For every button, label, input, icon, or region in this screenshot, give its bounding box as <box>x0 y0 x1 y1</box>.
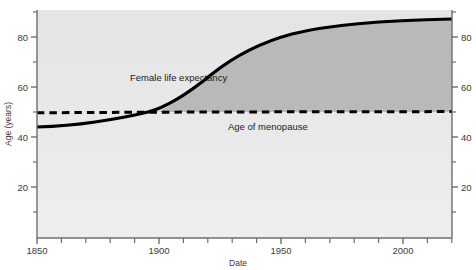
x-tick-label-1850: 1850 <box>26 245 47 256</box>
y-tick-label-left-20: 20 <box>17 182 28 193</box>
y-tick-label-right-80: 80 <box>461 32 472 43</box>
life-expectancy-vs-menopause-chart: 80 60 40 20 80 60 40 20 1850 1900 1950 2… <box>0 0 476 270</box>
x-axis-title: Date <box>229 258 247 268</box>
x-tick-label-2000: 2000 <box>392 245 413 256</box>
annotation-age-of-menopause: Age of menopause <box>228 121 308 132</box>
figure-container: 80 60 40 20 80 60 40 20 1850 1900 1950 2… <box>0 0 476 270</box>
y-tick-label-left-80: 80 <box>17 32 28 43</box>
x-minor-ticks <box>61 238 451 243</box>
y-tick-label-left-40: 40 <box>17 132 28 143</box>
y-tick-label-right-60: 60 <box>461 82 472 93</box>
y-axis-title: Age (years) <box>3 102 13 146</box>
x-tick-label-1900: 1900 <box>148 245 169 256</box>
y-tick-label-right-20: 20 <box>461 182 472 193</box>
x-major-ticks <box>37 238 403 244</box>
annotation-female-life-expectancy: Female life expectancy <box>130 72 227 83</box>
x-tick-label-1950: 1950 <box>270 245 291 256</box>
y-tick-label-right-40: 40 <box>461 132 472 143</box>
y-tick-label-left-60: 60 <box>17 82 28 93</box>
